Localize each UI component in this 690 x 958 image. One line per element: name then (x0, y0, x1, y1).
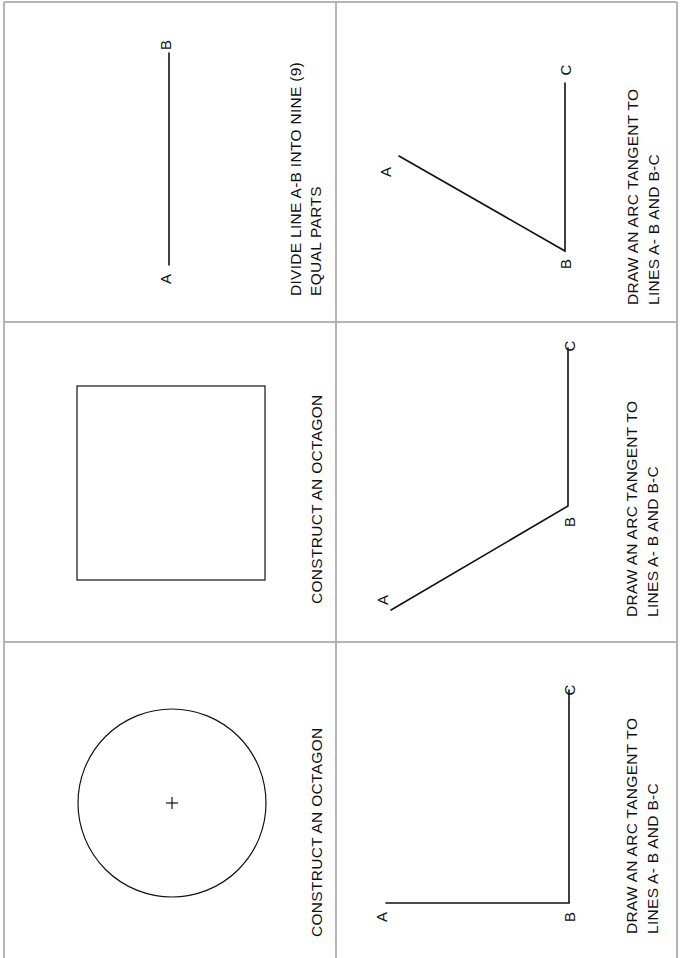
point-label-a: A (373, 912, 390, 922)
cell-arc-right: A B C DRAW AN ARC TANGENT TO LINES A- B … (373, 684, 661, 934)
instruction-line-2: LINES A- B AND B-C (644, 466, 661, 617)
cell-arc-acute: A B C DRAW AN ARC TANGENT TO LINES A- B … (377, 64, 662, 305)
point-label-b: B (557, 259, 574, 269)
instruction-line-2: EQUAL PARTS (307, 186, 324, 296)
point-label-a: A (157, 274, 174, 284)
angle-a-b-c (386, 690, 569, 903)
instruction-line-2: LINES A- B AND B-C (644, 783, 661, 934)
instruction-line-1: DRAW AN ARC TANGENT TO (624, 89, 641, 305)
point-label-b: B (561, 517, 578, 527)
angle-a-b-c (399, 83, 565, 251)
point-label-c: C (561, 684, 578, 695)
instruction-line-1: CONSTRUCT AN OCTAGON (308, 727, 325, 937)
angle-a-b-c (391, 348, 568, 610)
instruction-line-1: DRAW AN ARC TANGENT TO (623, 718, 640, 934)
cell-arc-obtuse: A B C DRAW AN ARC TANGENT TO LINES A- B … (374, 340, 661, 617)
grid (4, 2, 677, 958)
cell-octagon-square: CONSTRUCT AN OCTAGON (77, 386, 325, 604)
worksheet: B A DIVIDE LINE A-B INTO NINE (9) EQUAL … (0, 0, 690, 958)
instruction-line-2: LINES A- B AND B-C (645, 154, 662, 305)
point-label-a: A (377, 167, 394, 177)
point-label-a: A (374, 595, 391, 605)
point-label-c: C (557, 64, 574, 75)
cell-divide-line: B A DIVIDE LINE A-B INTO NINE (9) EQUAL … (157, 40, 324, 296)
instruction-line-1: DIVIDE LINE A-B INTO NINE (9) (287, 62, 304, 296)
square (77, 386, 265, 580)
instruction-line-1: CONSTRUCT AN OCTAGON (308, 394, 325, 604)
point-label-c: C (561, 340, 578, 351)
cell-octagon-circle: CONSTRUCT AN OCTAGON (78, 709, 325, 937)
point-label-b: B (157, 40, 174, 50)
point-label-b: B (561, 912, 578, 922)
instruction-line-1: DRAW AN ARC TANGENT TO (623, 401, 640, 617)
